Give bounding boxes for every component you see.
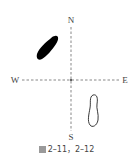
compass-diagram [0, 0, 133, 156]
filled-footprint-shape [37, 36, 58, 60]
caption-text: 2–11，2–12 [48, 145, 95, 154]
figure-mark-icon [39, 146, 46, 153]
center-point [70, 79, 72, 81]
east-label: E [122, 76, 128, 85]
south-label: S [68, 133, 73, 142]
west-label: W [11, 76, 20, 85]
figure-caption: 2–11，2–12 [0, 145, 133, 155]
north-label: N [68, 16, 75, 25]
outline-footprint-shape [88, 95, 98, 127]
